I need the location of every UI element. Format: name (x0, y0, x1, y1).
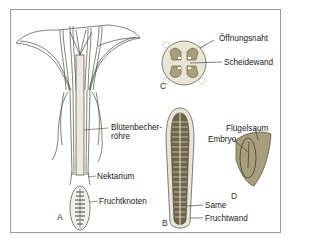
label-embryo: Embryo (208, 135, 236, 144)
winged-seed (231, 128, 271, 186)
label-scheidewand: Scheidewand (224, 58, 273, 67)
label-same: Same (205, 201, 226, 210)
panel-letter-b: B (162, 218, 168, 228)
label-nektarium: Nektarium (97, 172, 134, 181)
label-fruchtwand: Fruchtwand (205, 214, 248, 223)
label-bluetenbecherroehre-line2: röhre (111, 132, 130, 141)
label-fluegelsaum: Flügelsaum (226, 124, 268, 133)
panel-letter-a: A (57, 212, 63, 222)
fruit-longitudinal-section (166, 108, 203, 228)
panel-letter-d: D (231, 191, 237, 201)
label-bluetenbecherroehre-line1: Blütenbecher- (111, 123, 162, 132)
label-fruchtknoten: Fruchtknoten (99, 197, 147, 206)
label-oeffnungsnaht: Öffnungsnaht (219, 34, 268, 43)
fruit-cross-section (162, 40, 222, 85)
leader-lines-a (84, 128, 108, 202)
panel-letter-c: C (160, 81, 166, 91)
